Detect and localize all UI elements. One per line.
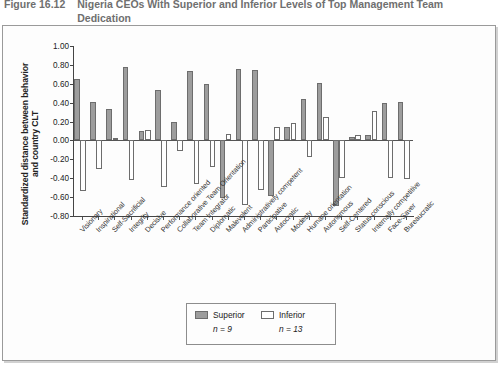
bar-superior (106, 109, 112, 140)
legend-label-superior: Superior (213, 310, 245, 320)
bar-superior (349, 137, 355, 141)
bar-superior (268, 140, 274, 196)
y-tick-label: 0.20 (27, 117, 69, 126)
y-tick-label: -0.60 (27, 193, 69, 202)
bar-group (301, 46, 317, 216)
bar-inferior (339, 140, 345, 178)
bar-superior (187, 71, 193, 141)
bar-superior (252, 70, 258, 141)
bar-group (317, 46, 333, 216)
bar-inferior (129, 140, 135, 180)
y-tick-label: 0.40 (27, 98, 69, 107)
y-tick-label: 0.80 (27, 60, 69, 69)
bar-inferior (194, 140, 200, 183)
bar-inferior (323, 117, 329, 141)
y-tick-label: 0.00 (27, 136, 69, 145)
legend-n-superior: n = 9 (195, 324, 261, 334)
y-axis-tick-labels: 1.000.800.600.400.200.00-0.20-0.40-0.60-… (25, 46, 69, 216)
bar-inferior (307, 140, 313, 157)
y-tick-label: 0.60 (27, 79, 69, 88)
bar-group (139, 46, 155, 216)
bar-superior (123, 67, 129, 141)
bar-inferior (226, 134, 232, 141)
bar-group (171, 46, 187, 216)
inferior-swatch-icon (261, 311, 274, 319)
legend-swatch-row: Superior Inferior (195, 310, 327, 320)
bar-superior (382, 103, 388, 141)
legend-n-inferior: n = 13 (261, 324, 327, 334)
bar-inferior (274, 127, 280, 140)
bar-superior (317, 83, 323, 141)
bar-superior (301, 99, 307, 141)
y-tick-label: 1.00 (27, 42, 69, 51)
bar-inferior (258, 140, 264, 189)
figure-caption: Figure 16.12 Nigeria CEOs With Superior … (0, 0, 502, 27)
bar-superior (204, 84, 210, 141)
bar-inferior (388, 140, 394, 178)
plot-area (73, 46, 413, 216)
y-tick-label: -0.80 (27, 212, 69, 221)
y-tick-label: -0.20 (27, 155, 69, 164)
bar-inferior (96, 140, 102, 168)
bar-inferior (404, 140, 410, 179)
bar-inferior (372, 111, 378, 140)
legend-sample-size-row: n = 9 n = 13 (195, 324, 327, 334)
bar-group (90, 46, 106, 216)
bar-group (74, 46, 90, 216)
bar-inferior (355, 135, 361, 141)
bar-superior (398, 102, 404, 141)
legend-item-inferior: Inferior (261, 310, 327, 320)
bar-group (365, 46, 381, 216)
bar-superior (171, 122, 177, 141)
bar-inferior (291, 123, 297, 140)
bar-inferior (242, 140, 248, 204)
bar-superior (155, 90, 161, 140)
bar-superior (365, 135, 371, 141)
figure-panel: Standardized distance between behavior a… (2, 25, 496, 361)
bar-group (155, 46, 171, 216)
legend-label-inferior: Inferior (279, 310, 305, 320)
legend-item-superior: Superior (195, 310, 261, 320)
bar-chart: Standardized distance between behavior a… (3, 26, 497, 362)
bar-group (123, 46, 139, 216)
bar-inferior (177, 140, 183, 150)
figure-title: Nigeria CEOs With Superior and Inferior … (77, 0, 477, 25)
superior-swatch-icon (195, 311, 208, 319)
bar-superior (74, 79, 80, 140)
bar-group (236, 46, 252, 216)
x-axis-tick-labels: VisionaryInspirationalSelf-SacrificialIn… (73, 222, 433, 302)
bar-group (106, 46, 122, 216)
bar-inferior (113, 138, 119, 141)
bar-superior (236, 69, 242, 141)
bar-inferior (145, 130, 151, 140)
bar-superior (90, 102, 96, 141)
bar-inferior (161, 140, 167, 186)
bar-superior (284, 127, 290, 140)
bar-superior (139, 131, 145, 140)
y-tick-label: -0.40 (27, 174, 69, 183)
figure-number: Figure 16.12 (0, 0, 65, 10)
bar-inferior (80, 140, 86, 191)
bar-group (252, 46, 268, 216)
bar-inferior (210, 140, 216, 166)
chart-legend: Superior Inferior n = 9 n = 13 (186, 303, 336, 345)
